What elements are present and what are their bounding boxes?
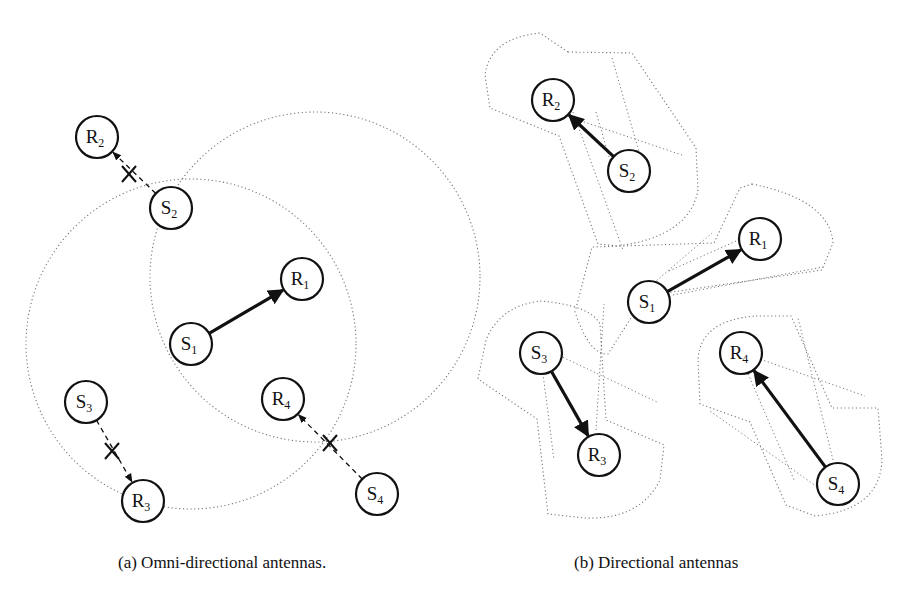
node-s1: S1 <box>170 323 212 365</box>
node-r4: R4 <box>262 378 304 420</box>
node-r2: R2 <box>76 116 118 158</box>
caption-omni-directional: (a) Omni-directional antennas. <box>118 553 326 573</box>
directional-beam-outline <box>485 33 698 246</box>
caption-directional: (b) Directional antennas <box>574 553 738 573</box>
antenna-comparison-figure: R2S2R1S1S3R4R3S4 R2S2R1S1S3R3R4S4 <box>0 0 911 593</box>
collision-x-icon <box>105 443 119 459</box>
beam-edge-line <box>673 267 823 295</box>
node-r1: R1 <box>739 218 781 260</box>
beam-edge-line <box>745 367 795 482</box>
beam-edge-line <box>757 358 865 396</box>
successful-transmission-arrow <box>551 371 588 436</box>
beam-edge-line <box>710 411 823 491</box>
interfered-transmission-arrow <box>113 152 156 193</box>
collision-x-icon <box>323 435 337 451</box>
node-r3: R3 <box>578 434 620 476</box>
directional-beam-outline <box>478 301 664 518</box>
successful-transmission-arrow <box>209 290 283 333</box>
node-r1: R1 <box>281 258 323 300</box>
node-s4: S4 <box>356 473 398 515</box>
panel-omni-directional: R2S2R1S1S3R4R3S4 <box>26 112 480 522</box>
interfered-transmission-arrow <box>96 420 132 482</box>
successful-transmission-arrow <box>569 115 614 157</box>
node-s4: S4 <box>817 463 859 505</box>
panel-directional: R2S2R1S1S3R3R4S4 <box>478 33 882 518</box>
interfered-transmission-arrow <box>298 415 362 479</box>
successful-transmission-arrow <box>667 250 741 292</box>
node-s3: S3 <box>520 332 562 374</box>
node-r3: R3 <box>122 480 164 522</box>
beam-edge-line <box>556 354 657 402</box>
node-r2: R2 <box>532 79 574 121</box>
node-r4: R4 <box>720 332 762 374</box>
node-s2: S2 <box>150 187 192 229</box>
beam-edge-line <box>648 233 712 288</box>
beam-edge-line <box>542 366 554 460</box>
node-s1: S1 <box>628 281 670 323</box>
node-s3: S3 <box>65 381 107 423</box>
node-s2: S2 <box>608 150 650 192</box>
